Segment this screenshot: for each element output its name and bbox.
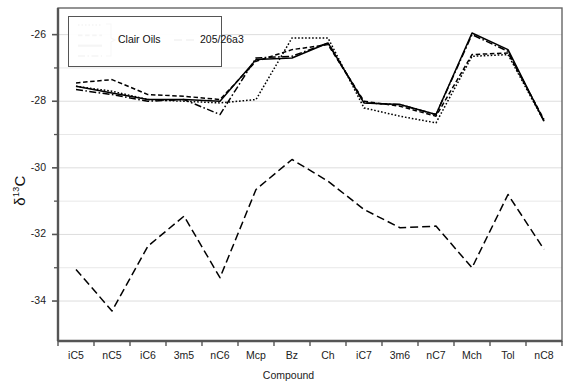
x-tick-label-3m6: 3m6 [390,349,410,361]
x-tick-label-Ch: Ch [321,349,334,361]
y-tick-label: -26 [20,28,46,40]
x-tick-label-Bz: Bz [286,349,298,361]
y-axis-label-delta: δ [10,197,27,206]
y-tick-label: -32 [20,227,46,239]
y-axis-label-carbon: C [10,175,27,186]
x-tick-label-nC7: nC7 [426,349,445,361]
x-axis-title: Compound [0,369,577,381]
legend-label-clair-oils: Clair Oils [118,33,161,45]
y-tick-label: -28 [20,94,46,106]
x-tick-label-3m5: 3m5 [174,349,194,361]
y-axis-label-superscript: 13 [10,186,20,197]
x-tick-label-iC7: iC7 [356,349,372,361]
x-tick-label-Tol: Tol [501,349,514,361]
y-tick-label: -34 [20,294,46,306]
x-tick-label-Mch: Mch [462,349,482,361]
legend-label-205-26a3: 205/26a3 [200,33,244,45]
chart-figure: δ13C Compound -26-28-30-32-34iC5nC5iC63m… [0,0,577,389]
x-tick-label-nC6: nC6 [210,349,229,361]
x-tick-label-iC5: iC5 [68,349,84,361]
x-tick-label-iC6: iC6 [140,349,156,361]
x-tick-label-nC5: nC5 [102,349,121,361]
y-tick-label: -30 [20,161,46,173]
x-tick-label-Mcp: Mcp [246,349,266,361]
x-tick-label-nC8: nC8 [534,349,553,361]
